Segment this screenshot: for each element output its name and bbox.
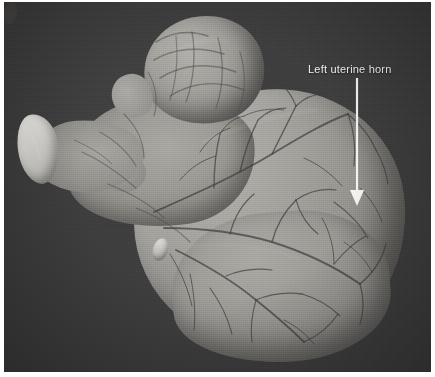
specimen-photograph: Left uterine horn <box>4 2 431 372</box>
annotation-label-left-uterine-horn: Left uterine horn <box>308 63 392 76</box>
annotation-arrow-down-icon <box>334 78 378 208</box>
gross-pathology-figure: Left uterine horn <box>0 0 435 377</box>
annotation-layer: Left uterine horn <box>4 2 431 372</box>
